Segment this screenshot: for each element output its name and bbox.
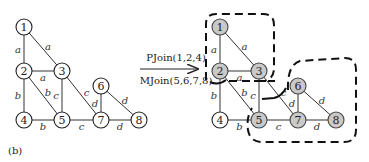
mjoin-label: MJoin(5,6,7,8) xyxy=(140,75,213,86)
node-label: 5 xyxy=(59,114,66,127)
right-edge-label: b xyxy=(211,90,217,101)
pjoin-label: PJoin(1,2,4) xyxy=(146,52,206,63)
left-graph-edges: aaabbbcccddd xyxy=(15,27,139,132)
left-edge-label: c xyxy=(79,121,85,132)
left-node-1: 1 xyxy=(16,19,32,35)
right-edge-label: d xyxy=(319,95,325,106)
right-graph-nodes: 12345678 xyxy=(212,19,344,128)
left-node-7: 7 xyxy=(93,112,109,128)
left-edge-label: b xyxy=(40,121,46,132)
node-label: 1 xyxy=(217,21,224,34)
right-edge-label: a xyxy=(242,41,248,52)
transformation-arrow: PJoin(1,2,4) MJoin(5,6,7,8) xyxy=(140,52,213,86)
right-node-6: 6 xyxy=(290,78,306,94)
left-edge-label: a xyxy=(15,44,21,55)
right-edge-label: a xyxy=(237,72,243,83)
left-edge-label: a xyxy=(40,72,46,83)
pjoin-partition-arc xyxy=(210,80,226,84)
left-node-6: 6 xyxy=(93,78,109,94)
node-label: 4 xyxy=(21,114,28,127)
left-graph-nodes: 12345678 xyxy=(16,19,147,128)
node-label: 7 xyxy=(98,114,105,127)
node-label: 6 xyxy=(98,80,105,93)
node-label: 3 xyxy=(256,65,263,78)
right-node-5: 5 xyxy=(251,112,267,128)
right-edge-label: a xyxy=(211,44,217,55)
left-edge-label: d xyxy=(117,121,123,132)
node-label: 6 xyxy=(295,80,302,93)
left-edge-label: c xyxy=(84,87,90,98)
left-edge-label: b xyxy=(15,90,21,101)
right-node-3: 3 xyxy=(251,63,267,79)
left-node-5: 5 xyxy=(54,112,70,128)
left-edge-label: d xyxy=(122,95,128,106)
node-label: 3 xyxy=(59,65,66,78)
figure-caption: (b) xyxy=(8,145,22,156)
right-edge-label: d xyxy=(314,121,320,132)
left-edge-1-3 xyxy=(24,27,62,71)
node-label: 2 xyxy=(217,65,224,78)
left-node-8: 8 xyxy=(131,112,147,128)
node-label: 4 xyxy=(217,114,224,127)
right-edge-label: c xyxy=(276,121,282,132)
right-node-7: 7 xyxy=(290,112,306,128)
right-edge-label: b xyxy=(236,121,242,132)
join-diagram: aaabbbcccddd aaabbbcccddd 12345678 12345… xyxy=(0,0,369,162)
right-edge-1-3 xyxy=(220,27,259,71)
left-edge-label: c xyxy=(53,90,59,101)
node-label: 8 xyxy=(136,114,143,127)
right-edge-label: c xyxy=(250,90,256,101)
node-label: 7 xyxy=(295,114,302,127)
node-label: 1 xyxy=(21,21,28,34)
left-node-4: 4 xyxy=(16,112,32,128)
right-node-8: 8 xyxy=(328,112,344,128)
right-node-4: 4 xyxy=(212,112,228,128)
left-edge-label: a xyxy=(45,41,51,52)
right-node-2: 2 xyxy=(212,63,228,79)
right-graph-edges: aaabbbcccddd xyxy=(211,27,336,132)
right-node-1: 1 xyxy=(212,19,228,35)
left-edge-3-7 xyxy=(62,71,101,120)
left-node-2: 2 xyxy=(16,63,32,79)
left-edge-label: d xyxy=(92,98,98,109)
node-label: 5 xyxy=(256,114,263,127)
right-edge-label: b xyxy=(241,87,247,98)
node-label: 2 xyxy=(21,65,28,78)
right-edge-label: d xyxy=(289,98,295,109)
left-node-3: 3 xyxy=(54,63,70,79)
node-label: 8 xyxy=(333,114,340,127)
left-edge-label: b xyxy=(45,87,51,98)
